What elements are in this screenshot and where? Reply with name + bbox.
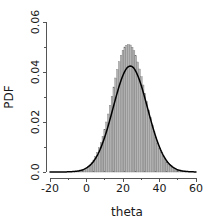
histogram-bar	[162, 156, 164, 172]
histogram-bar	[149, 118, 151, 172]
histogram-bar	[173, 169, 175, 172]
histogram-bar	[160, 153, 162, 173]
histogram-bar	[126, 45, 128, 172]
histogram-bar	[117, 70, 119, 173]
histogram-bar	[171, 168, 173, 173]
histogram-bar	[128, 45, 130, 173]
histogram-bars	[75, 45, 186, 173]
axis-tick-label: 0.02	[29, 110, 42, 135]
histogram-bar	[168, 164, 170, 172]
chart-figure: -2002040600.00.020.040.06 theta PDF	[0, 0, 210, 224]
histogram-bar	[159, 148, 161, 172]
histogram-bar	[166, 162, 168, 172]
histogram-bar	[120, 55, 122, 172]
axis-tick-label: 0.04	[29, 60, 42, 85]
histogram-bar	[118, 62, 120, 172]
histogram-bar	[129, 45, 131, 172]
histogram-bar	[115, 78, 117, 172]
histogram-bar	[122, 50, 124, 172]
x-axis-title: theta	[111, 205, 143, 219]
histogram-density-plot: -2002040600.00.020.040.06 theta PDF	[0, 0, 210, 224]
histogram-bar	[139, 69, 141, 172]
histogram-bar	[170, 166, 172, 172]
histogram-bar	[157, 143, 159, 172]
histogram-bar	[140, 77, 142, 172]
histogram-bar	[144, 94, 146, 173]
axis-tick-label: 60	[189, 182, 203, 195]
histogram-bar	[155, 138, 157, 172]
axis-tick-label: 0.0	[29, 163, 42, 181]
axis-tick-label: 20	[116, 182, 130, 195]
axis-tick-label: -20	[41, 182, 59, 195]
y-axis-title: PDF	[2, 85, 16, 108]
histogram-bar	[124, 47, 126, 172]
histogram-bar	[151, 125, 153, 172]
axis-tick-label: 40	[153, 182, 167, 195]
histogram-bar	[146, 102, 148, 172]
histogram-bar	[164, 160, 166, 173]
axis-tick-label: 0	[83, 182, 90, 195]
histogram-bar	[142, 85, 144, 172]
histogram-bar	[148, 110, 150, 172]
histogram-bar	[153, 132, 155, 172]
axis-tick-label: 0.06	[29, 10, 42, 35]
